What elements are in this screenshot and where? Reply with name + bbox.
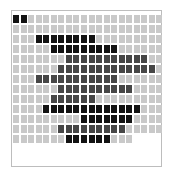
grid-cell [134, 95, 140, 103]
grid-cell [119, 25, 125, 33]
grid-cell [73, 135, 79, 143]
grid-cell [28, 75, 34, 83]
grid-cell [13, 85, 19, 93]
grid-cell [28, 115, 34, 123]
grid-cell [66, 115, 72, 123]
grid-cell [89, 125, 95, 133]
grid-cell [58, 45, 64, 53]
grid-cell [89, 45, 95, 53]
grid-cell [66, 65, 72, 73]
grid-cell [156, 25, 162, 33]
grid-cell [119, 85, 125, 93]
grid-cell [134, 85, 140, 93]
grid-cell [89, 115, 95, 123]
grid-cell [51, 15, 57, 23]
grid-cell [134, 115, 140, 123]
grid-cell [134, 75, 140, 83]
grid-cell [73, 55, 79, 63]
grid-cell [141, 15, 147, 23]
grid-cell [73, 65, 79, 73]
grid-cell [126, 95, 132, 103]
grid-cell [36, 65, 42, 73]
grid-cell [111, 105, 117, 113]
grid-cell [21, 95, 27, 103]
grid-cell [13, 135, 19, 143]
grid-cell [81, 15, 87, 23]
grid-cell [13, 15, 19, 23]
grid-cell [43, 85, 49, 93]
grid-cell [36, 35, 42, 43]
grid-cell [43, 115, 49, 123]
grid-cell [36, 75, 42, 83]
grid-cell [96, 75, 102, 83]
grid-cell [156, 125, 162, 133]
grid-cell [134, 25, 140, 33]
grid-cell [21, 85, 27, 93]
grid-cell [111, 95, 117, 103]
grid-cell [36, 105, 42, 113]
grid-cell [141, 115, 147, 123]
grid-cell [89, 15, 95, 23]
grid-cell [66, 85, 72, 93]
grid-cell [66, 55, 72, 63]
grid-cell [66, 125, 72, 133]
grid-cell [36, 25, 42, 33]
grid-cell [126, 105, 132, 113]
grid-cell [89, 95, 95, 103]
grid-cell [43, 45, 49, 53]
grid-cell [96, 105, 102, 113]
grid-cell [81, 55, 87, 63]
grid-cell [66, 45, 72, 53]
grid-cell [28, 45, 34, 53]
grid-cell [119, 15, 125, 23]
grid-cell [104, 105, 110, 113]
grid-cell [111, 55, 117, 63]
grid-cell [21, 115, 27, 123]
grid-cell [126, 65, 132, 73]
grid-cell [149, 95, 155, 103]
grid-cell [43, 135, 49, 143]
grid-cell [51, 75, 57, 83]
grid-cell [58, 135, 64, 143]
grid-cell [21, 55, 27, 63]
grid-cell [13, 105, 19, 113]
grid-cell [58, 85, 64, 93]
grid-cell [51, 45, 57, 53]
grid-cell [104, 25, 110, 33]
grid-cell [96, 25, 102, 33]
grid-cell [134, 105, 140, 113]
grid-cell [104, 65, 110, 73]
grid-cell [149, 15, 155, 23]
grid-cell [81, 125, 87, 133]
grid-cell [73, 95, 79, 103]
grid-cell [96, 125, 102, 133]
grid-cell [96, 115, 102, 123]
grid-cell [89, 55, 95, 63]
grid-cell [149, 85, 155, 93]
grid-cell [28, 135, 34, 143]
grid-cell [149, 75, 155, 83]
grid-cell [73, 45, 79, 53]
grid-cell [96, 85, 102, 93]
grid-cell [66, 135, 72, 143]
grid-cell [104, 15, 110, 23]
grid-cell [119, 115, 125, 123]
grid-cell [149, 45, 155, 53]
grid-cell [43, 95, 49, 103]
grid-cell [36, 15, 42, 23]
grid-cell [89, 85, 95, 93]
grid-cell [111, 135, 117, 143]
grid-cell [89, 105, 95, 113]
grid-cell [58, 65, 64, 73]
grid-cell [126, 15, 132, 23]
grid-cell [104, 75, 110, 83]
grid-cell [126, 85, 132, 93]
grid-cell [43, 75, 49, 83]
grid-cell [51, 25, 57, 33]
grid-cell [51, 55, 57, 63]
grid-cell [51, 125, 57, 133]
grid-cell [58, 115, 64, 123]
grid-cell [58, 75, 64, 83]
grid-cell [81, 35, 87, 43]
grid-cell [13, 75, 19, 83]
